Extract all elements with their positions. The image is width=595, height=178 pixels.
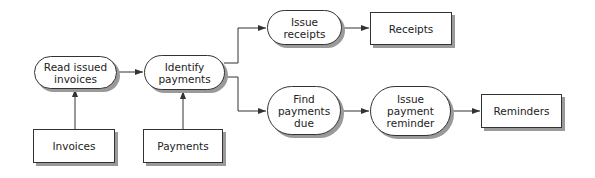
data-store-payments: Payments	[143, 129, 223, 163]
process-read-issued-invoices: Read issued invoices	[34, 56, 117, 89]
edge-identify-to-find-due	[224, 77, 266, 111]
node-label: Receipts	[389, 23, 434, 35]
process-identify-payments: Identify payments	[144, 55, 225, 90]
node-label: Invoices	[52, 140, 95, 152]
node-label: Identify payments	[158, 61, 210, 85]
data-store-reminders: Reminders	[481, 94, 562, 128]
data-store-receipts: Receipts	[370, 12, 452, 45]
process-find-payments-due: Find payments due	[267, 86, 341, 135]
process-issue-payment-reminder: Issue payment reminder	[370, 86, 451, 136]
node-label: Reminders	[494, 105, 550, 117]
node-label: Issue payment reminder	[387, 93, 435, 129]
process-issue-receipts: Issue receipts	[267, 10, 342, 45]
diagram-canvas: Read issued invoices Identify payments I…	[0, 0, 595, 178]
node-label: Payments	[157, 140, 208, 152]
data-store-invoices: Invoices	[33, 129, 115, 163]
node-label: Find payments due	[278, 93, 330, 129]
node-label: Read issued invoices	[44, 61, 107, 85]
node-label: Issue receipts	[284, 16, 326, 40]
edge-identify-to-issue-receipts	[224, 28, 266, 63]
